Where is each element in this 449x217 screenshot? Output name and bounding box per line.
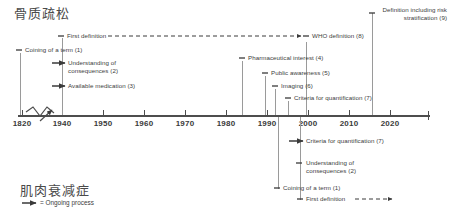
axis-year-label: 1820	[13, 119, 32, 128]
axis-year-label: 2020	[381, 119, 400, 128]
axis-year-label: 2010	[340, 119, 359, 128]
top-section-title: 骨质疏松	[14, 3, 70, 22]
axis-tick-1970	[185, 110, 186, 115]
legend-label: = Ongoing process	[40, 199, 94, 206]
axis-tick-2000	[308, 110, 309, 115]
guide-line-imaging	[275, 89, 276, 115]
axis-year-label: 2000	[299, 119, 318, 128]
axis-year-label: 1960	[135, 119, 154, 128]
axis-tick-1990	[267, 110, 268, 115]
event-label-pharmaceutical: Pharmaceutical interest (4)	[248, 54, 323, 62]
event-label-risk-stratification: Definition including risk stratification…	[377, 6, 447, 21]
guide-line-who	[306, 42, 307, 115]
event-label-public-awareness: Public awareness (5)	[271, 69, 330, 77]
event-label-who-definition: WHO definition (8)	[312, 32, 364, 40]
axis-tick-1950	[103, 110, 104, 115]
axis-year-label: 1950	[94, 119, 113, 128]
guide-line-criteria-top	[288, 101, 289, 115]
timeline-diagram: 骨质疏松 肌肉衰减症 1820 1940 1950 1960 1970 1980…	[0, 0, 449, 217]
axis-year-label: 1940	[53, 119, 72, 128]
axis-year-label: 1990	[258, 119, 277, 128]
axis-tick-1980	[226, 110, 227, 115]
axis-tick-2010	[349, 110, 350, 115]
axis-year-label: 1970	[176, 119, 195, 128]
axis-tick-2020	[390, 110, 391, 115]
event-label-medication-top: Available medication (3)	[68, 82, 135, 90]
axis-year-label: 1980	[217, 119, 236, 128]
guide-line-risk-stratification	[372, 13, 373, 115]
guide-line-coining-bottom	[278, 117, 279, 189]
event-label-understanding-bottom: Understanding of consequences (2)	[306, 159, 382, 174]
event-label-first-definition-top: First definition	[67, 32, 106, 40]
event-label-coining-bottom: Coining of a term (1)	[283, 184, 340, 192]
event-label-criteria-bottom: Criteria for quantification (7)	[306, 137, 384, 145]
event-label-imaging: Imaging (6)	[281, 82, 313, 90]
event-label-understanding-top: Understanding of consequences (2)	[68, 59, 140, 74]
bottom-section-title: 肌肉衰减症	[20, 180, 90, 199]
axis-tick-1820	[22, 110, 23, 115]
event-label-criteria-top: Criteria for quantification (7)	[294, 94, 372, 102]
event-label-coining-top: Coining of a term (1)	[25, 46, 82, 54]
guide-line-coining-top	[20, 53, 21, 115]
axis-tick-1960	[144, 110, 145, 115]
axis-end-cap	[428, 111, 429, 120]
event-label-first-definition-bottom: First definition	[306, 195, 345, 203]
timeline-axis	[18, 115, 430, 117]
guide-line-pharma	[242, 61, 243, 115]
guide-line-public-awareness	[265, 76, 266, 115]
